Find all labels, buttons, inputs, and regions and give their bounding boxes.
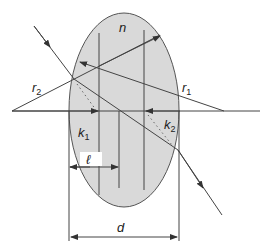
lens-diagram: n r2 r1 k1 k2 ℓ d xyxy=(0,0,261,247)
label-n: n xyxy=(119,20,126,35)
incident-ray-arrow xyxy=(34,26,50,47)
label-r2: r2 xyxy=(32,80,41,97)
label-d: d xyxy=(117,220,125,235)
lens-body xyxy=(69,13,179,207)
label-r1: r1 xyxy=(182,80,191,97)
l-label-box xyxy=(80,152,102,166)
exit-ray-arrow xyxy=(178,150,203,188)
